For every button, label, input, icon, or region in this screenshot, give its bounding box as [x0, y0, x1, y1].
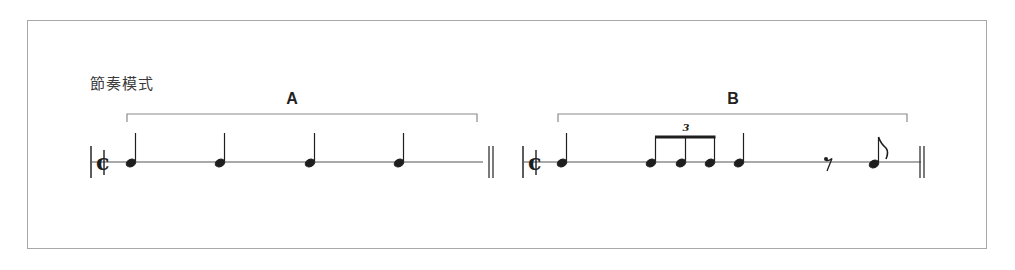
quarter-note-icon: [214, 133, 226, 168]
eighth-rest-icon: [824, 157, 832, 171]
triplet-eighths-icon: [645, 136, 716, 169]
section-b-bracket: [558, 114, 907, 122]
tuplet-number: 3: [683, 122, 690, 133]
staff-a: c: [91, 133, 493, 178]
quarter-note-icon: [556, 133, 568, 168]
quarter-note-icon: [393, 133, 405, 168]
quarter-note-icon: [304, 133, 316, 168]
eighth-note-icon: [868, 137, 888, 169]
common-time-icon: c: [528, 149, 541, 175]
common-time-icon: c: [96, 149, 109, 175]
quarter-note-icon: [733, 133, 745, 168]
double-barline-icon: [489, 146, 493, 178]
rhythm-score: c c: [0, 0, 1015, 270]
double-barline-icon: [920, 146, 924, 178]
quarter-note-icon: [125, 133, 137, 168]
section-a-bracket: [127, 114, 477, 122]
staff-b: c 3: [523, 122, 924, 178]
